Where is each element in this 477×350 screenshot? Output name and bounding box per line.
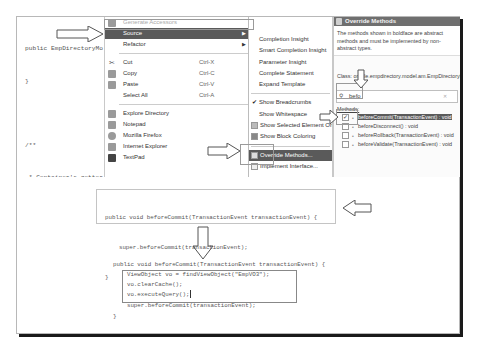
dialog-app-icon bbox=[336, 18, 342, 25]
code-line: public void beforeCommit(TransactionEven… bbox=[105, 213, 335, 223]
arrow-left-icon bbox=[342, 200, 372, 216]
submenu-item-complete-statement[interactable]: Complete Statement bbox=[249, 68, 332, 79]
callout-box-override bbox=[240, 144, 274, 165]
menu-item-paste[interactable]: Paste Ctrl-V bbox=[105, 79, 251, 90]
code-line: ViewObject vo = findViewObject("EmpVO3")… bbox=[113, 270, 270, 280]
code-line bbox=[25, 109, 105, 120]
code-line: super.beforeCommit(transactionEvent); bbox=[105, 243, 335, 253]
method-row-before-rollback[interactable]: • beforeRollback(TransactionEvent) : voi… bbox=[334, 131, 460, 140]
submenu-item-parameter-insight[interactable]: Parameter Insight bbox=[249, 57, 332, 68]
code-line: vo.executeQuery(); bbox=[113, 290, 191, 300]
submenu-arrow-icon: ▶ bbox=[242, 39, 246, 50]
arrow-right-icon bbox=[207, 143, 241, 159]
folder-icon bbox=[108, 110, 116, 118]
menu-separator bbox=[251, 93, 330, 94]
generated-code-snippet: public void beforeCommit(TransactionEven… bbox=[96, 189, 336, 224]
code-line: super.beforeCommit(transactionEvent); bbox=[113, 301, 256, 311]
menu-item-cut[interactable]: ✂ Cut Ctrl-X bbox=[105, 57, 251, 68]
menu-item-select-all[interactable]: Select All Ctrl-A bbox=[105, 90, 251, 101]
dialog-titlebar[interactable]: Override Methods bbox=[334, 17, 460, 26]
method-icon: • bbox=[352, 141, 354, 149]
code-line: } bbox=[113, 312, 116, 322]
submenu-item-completion-insight[interactable]: Completion Insight bbox=[249, 34, 332, 45]
method-icon: • bbox=[352, 132, 354, 140]
code-line: public void beforeCommit(TransactionEven… bbox=[113, 260, 325, 270]
selected-element-icon bbox=[251, 122, 258, 129]
menu-separator bbox=[119, 53, 249, 54]
submenu-item-expand-template[interactable]: Expand Template bbox=[249, 79, 332, 90]
method-checkbox[interactable] bbox=[342, 132, 349, 139]
submenu-item-smart-completion-insight[interactable]: Smart Completion Insight bbox=[249, 45, 332, 56]
method-checkbox[interactable] bbox=[342, 141, 349, 148]
textpad-icon bbox=[108, 154, 116, 162]
menu-item-notepad[interactable]: Notepad bbox=[105, 119, 251, 130]
block-coloring-icon bbox=[251, 133, 258, 140]
arrow-down-icon bbox=[354, 69, 368, 89]
menu-item-firefox[interactable]: Mozilla Firefox bbox=[105, 130, 251, 141]
scissors-icon: ✂ bbox=[108, 59, 116, 67]
arrow-right-icon bbox=[319, 110, 339, 124]
code-line: public EmpDirectoryMo bbox=[25, 44, 105, 55]
code-line: /** bbox=[25, 141, 105, 152]
method-row-before-validate[interactable]: • beforeValidate(TransactionEvent) : voi… bbox=[334, 140, 460, 149]
submenu-item-show-block-coloring[interactable]: Show Block Coloring bbox=[249, 131, 332, 142]
callout-box-menu bbox=[104, 19, 254, 30]
dialog-description: The methods shown in boldface are abstra… bbox=[334, 26, 460, 56]
notepad-icon bbox=[108, 121, 116, 129]
menu-item-explore-directory[interactable]: Explore Directory bbox=[105, 108, 251, 119]
text-cursor bbox=[190, 290, 191, 298]
code-line: vo.clearCache(); bbox=[113, 280, 183, 290]
firefox-icon bbox=[108, 132, 116, 140]
arrow-right-icon bbox=[56, 26, 104, 42]
menu-separator bbox=[119, 104, 249, 105]
menu-item-copy[interactable]: Copy Ctrl-C bbox=[105, 68, 251, 79]
submenu-item-show-breadcrumbs[interactable]: ✔ Show Breadcrumbs bbox=[249, 97, 332, 108]
paste-icon bbox=[108, 81, 116, 89]
code-line: * Container's getter bbox=[25, 173, 105, 177]
modified-code-snippet: public void beforeCommit(TransactionEven… bbox=[113, 263, 353, 329]
menu-item-refactor[interactable]: Refactor ▶ bbox=[105, 39, 251, 50]
clear-search-icon[interactable]: ✕ bbox=[443, 91, 447, 102]
copy-icon bbox=[108, 70, 116, 78]
callout-box-checkbox bbox=[336, 109, 358, 125]
ie-icon bbox=[108, 143, 116, 151]
code-line: } bbox=[25, 77, 105, 88]
checkmark-icon: ✔ bbox=[251, 99, 258, 106]
